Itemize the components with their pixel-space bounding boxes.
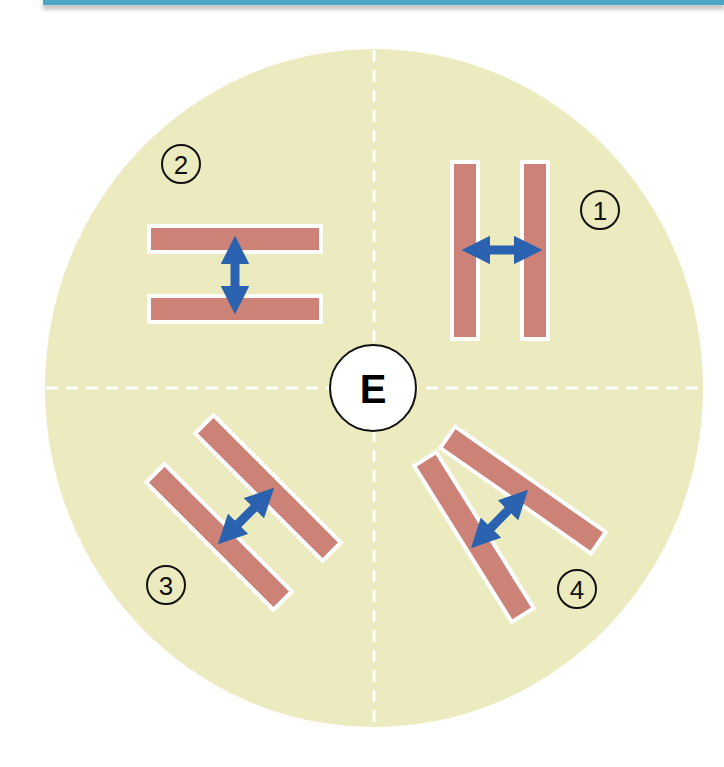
quadrant-diagram: 2 1 3 4 E bbox=[0, 0, 724, 767]
svg-text:E: E bbox=[360, 367, 387, 411]
bar bbox=[452, 162, 478, 339]
svg-text:2: 2 bbox=[174, 150, 188, 180]
center-marker: E bbox=[330, 345, 416, 431]
svg-text:3: 3 bbox=[159, 571, 173, 601]
svg-text:1: 1 bbox=[593, 196, 607, 226]
bar bbox=[149, 226, 321, 252]
svg-text:4: 4 bbox=[570, 575, 584, 605]
